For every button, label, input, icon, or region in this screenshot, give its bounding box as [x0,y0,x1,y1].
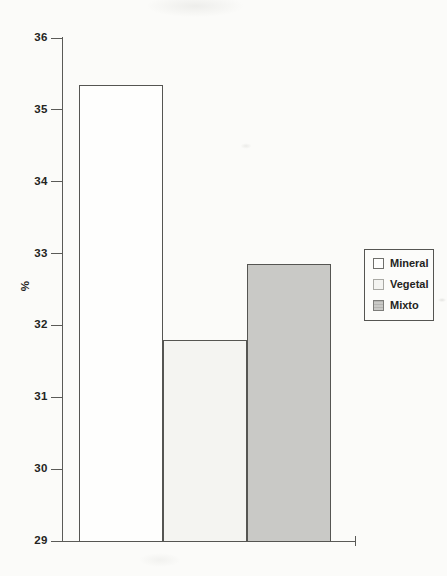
bar-vegetal [163,340,247,542]
bar-mineral [79,85,163,542]
y-tick-label-29: 29 [18,534,48,546]
legend-row-vegetal: Vegetal [373,278,429,290]
legend: MineralVegetalMixto [364,249,434,321]
legend-label-vegetal: Vegetal [390,278,429,290]
y-tick-line-34 [51,181,63,182]
legend-row-mineral: Mineral [373,257,429,269]
y-tick-line-31 [51,397,63,398]
y-axis-line [62,37,63,542]
legend-swatch-mineral [373,258,384,269]
legend-label-mineral: Mineral [390,257,429,269]
y-tick-line-35 [51,109,63,110]
legend-row-mixto: Mixto [373,299,429,311]
y-tick-line-32 [51,325,63,326]
y-tick-label-33: 33 [18,247,48,259]
y-tick-line-33 [51,253,63,254]
legend-swatch-vegetal [373,279,384,290]
y-axis-label: % [19,277,35,295]
y-tick-label-30: 30 [18,462,48,474]
y-tick-label-35: 35 [18,103,48,115]
bar-mixto [247,264,331,542]
y-tick-label-32: 32 [18,318,48,330]
bar-chart: % 3635343332313029 MineralVegetalMixto [0,0,447,576]
legend-swatch-mixto [373,300,384,311]
y-tick-label-31: 31 [18,390,48,402]
y-tick-line-30 [51,469,63,470]
y-tick-label-36: 36 [18,31,48,43]
x-axis-end-tick [355,536,356,546]
y-tick-label-34: 34 [18,175,48,187]
legend-label-mixto: Mixto [390,299,419,311]
scanned-chart-page: % 3635343332313029 MineralVegetalMixto [0,0,447,576]
y-tick-line-36 [51,38,63,39]
y-tick-line-29 [51,541,63,542]
